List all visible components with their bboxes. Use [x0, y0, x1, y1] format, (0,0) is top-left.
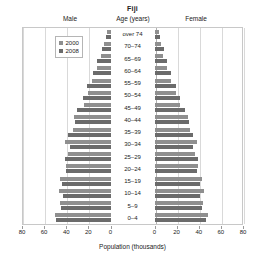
bar-male-2008[interactable] [93, 71, 111, 75]
bar-male-2008[interactable] [62, 182, 111, 186]
x-tick-label-right-60: 60 [213, 229, 229, 235]
x-tick-label-left-20: 20 [80, 229, 96, 235]
bar-male-2008[interactable] [97, 59, 110, 63]
bar-male-2008[interactable] [83, 96, 111, 100]
bar-male-2008[interactable] [68, 133, 110, 137]
bar-male-2000[interactable] [84, 103, 111, 107]
bar-female-2000[interactable] [155, 42, 162, 46]
x-tick-label-left-80: 80 [14, 229, 30, 235]
bar-male-2000[interactable] [73, 128, 111, 132]
bar-male-2008[interactable] [66, 169, 110, 173]
bar-male-2000[interactable] [74, 115, 111, 119]
x-tick-label-right-0: 0 [147, 229, 163, 235]
bar-male-2008[interactable] [65, 157, 110, 161]
bar-female-2000[interactable] [155, 115, 188, 119]
bar-male-2008[interactable] [87, 84, 110, 88]
bar-female-2008[interactable] [155, 206, 203, 210]
bar-male-2000[interactable] [68, 152, 110, 156]
bar-female-2000[interactable] [155, 201, 204, 205]
bar-male-2000[interactable] [88, 91, 110, 95]
square-swatch-icon [59, 49, 63, 53]
legend-item-2008[interactable]: 2008 [59, 47, 79, 55]
bar-female-2008[interactable] [155, 35, 161, 39]
bar-female-2000[interactable] [155, 140, 197, 144]
gridline-right-80 [244, 28, 245, 224]
population-pyramid-chart: Fiji Male Age (years) Female over 7470–7… [0, 0, 265, 268]
bar-male-2000[interactable] [65, 140, 110, 144]
bar-female-2000[interactable] [155, 54, 164, 58]
bar-female-2008[interactable] [155, 218, 207, 222]
bar-female-2000[interactable] [155, 152, 196, 156]
bar-female-2000[interactable] [155, 30, 159, 34]
bar-male-2000[interactable] [97, 66, 110, 70]
bar-male-2008[interactable] [56, 218, 110, 222]
x-tick-label-left-0: 0 [103, 229, 119, 235]
bar-female-2008[interactable] [155, 108, 186, 112]
bar-male-2008[interactable] [61, 206, 111, 210]
x-axis-ticks: 806040200020406080 [22, 226, 243, 236]
bar-female-2008[interactable] [155, 133, 194, 137]
bar-male-2000[interactable] [104, 42, 111, 46]
bar-female-2008[interactable] [155, 145, 194, 149]
bar-female-2008[interactable] [155, 169, 197, 173]
bar-female-2008[interactable] [155, 47, 165, 51]
bar-female-2000[interactable] [155, 189, 205, 193]
center-axis-gutter [111, 28, 155, 224]
bar-male-2000[interactable] [66, 164, 110, 168]
bar-male-2000[interactable] [101, 54, 111, 58]
x-axis-title: Population (thousands) [0, 243, 265, 250]
legend-item-2000[interactable]: 2000 [59, 39, 79, 47]
bar-female-2000[interactable] [155, 164, 198, 168]
column-header-female: Female [168, 15, 224, 22]
bar-female-2000[interactable] [155, 213, 208, 217]
bar-female-2008[interactable] [155, 96, 180, 100]
legend[interactable]: 2000 2008 [55, 36, 83, 58]
bar-female-2000[interactable] [155, 177, 203, 181]
x-tick-label-right-80: 80 [235, 229, 251, 235]
column-header-age: Age (years) [104, 15, 162, 22]
bar-female-2008[interactable] [155, 84, 176, 88]
bar-male-2000[interactable] [55, 213, 110, 217]
bar-male-2008[interactable] [77, 108, 110, 112]
bar-male-2008[interactable] [70, 145, 111, 149]
bar-female-2000[interactable] [155, 128, 190, 132]
bar-female-2008[interactable] [155, 194, 200, 198]
bar-male-2008[interactable] [75, 120, 110, 124]
bar-female-2000[interactable] [155, 103, 180, 107]
bar-female-2000[interactable] [155, 66, 167, 70]
bar-female-2000[interactable] [155, 91, 176, 95]
chart-title: Fiji [0, 5, 265, 12]
bar-female-2008[interactable] [155, 71, 172, 75]
x-tick-label-right-40: 40 [191, 229, 207, 235]
bar-female-2008[interactable] [155, 182, 200, 186]
x-tick-label-right-20: 20 [169, 229, 185, 235]
legend-label: 2008 [66, 47, 79, 55]
x-tick-label-left-40: 40 [58, 229, 74, 235]
bar-male-2000[interactable] [60, 177, 111, 181]
bar-male-2000[interactable] [92, 79, 111, 83]
bar-male-2008[interactable] [63, 194, 111, 198]
column-header-male: Male [42, 15, 98, 22]
bar-female-2008[interactable] [155, 157, 198, 161]
bar-female-2008[interactable] [155, 59, 167, 63]
bar-female-2000[interactable] [155, 79, 172, 83]
bar-male-2000[interactable] [60, 201, 111, 205]
x-tick-label-left-60: 60 [36, 229, 52, 235]
legend-label: 2000 [66, 39, 79, 47]
square-swatch-icon [59, 41, 63, 45]
bar-male-2008[interactable] [102, 47, 111, 51]
bar-female-2008[interactable] [155, 120, 189, 124]
bar-male-2000[interactable] [59, 189, 111, 193]
